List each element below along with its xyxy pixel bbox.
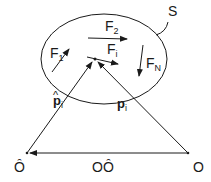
position-vector-p-i — [98, 62, 188, 153]
origin-offset-label: OÔ — [92, 159, 114, 175]
p-hat-i-label: pi — [53, 93, 63, 110]
force-f2-label: F2 — [105, 18, 119, 36]
point-o-dot — [187, 152, 190, 155]
free-body-diagram: S F1 F2 Fi FN ^ pi pi Ô O OÔ — [0, 0, 211, 182]
point-o-hat-label: Ô — [14, 159, 25, 175]
region-s-label: S — [168, 3, 177, 19]
s-leader-line — [156, 22, 168, 35]
force-fi-label: Fi — [107, 41, 118, 59]
force-f2-arrow — [88, 38, 127, 39]
point-o-hat-dot — [26, 152, 29, 155]
force-f1-label: F1 — [50, 45, 64, 63]
force-fn-arrow — [139, 45, 143, 76]
point-o-label: O — [193, 159, 204, 175]
p-i-label: pi — [117, 96, 127, 113]
force-fn-label: FN — [146, 55, 161, 73]
particle-point — [94, 58, 97, 61]
